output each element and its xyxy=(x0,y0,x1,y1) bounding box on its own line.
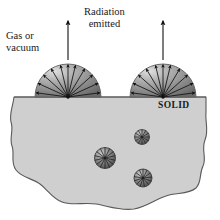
label-radiation-emitted: Radiation emitted xyxy=(84,6,125,30)
left-emission-hemisphere xyxy=(35,64,101,99)
internal-emitter-upper-right xyxy=(135,130,150,145)
label-gas-or-vacuum: Gas or vacuum xyxy=(6,30,39,54)
internal-emitter-lower-right xyxy=(134,169,152,187)
right-emission-hemisphere xyxy=(130,64,196,99)
label-solid: SOLID xyxy=(158,100,190,111)
right-emission-point xyxy=(161,95,164,98)
left-emission-point xyxy=(66,95,69,98)
internal-emitter-center xyxy=(95,148,116,169)
